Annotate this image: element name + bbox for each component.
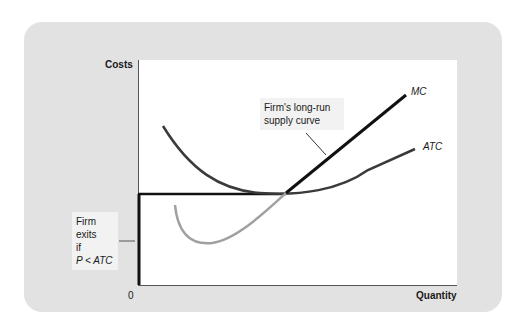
x-axis-label: Quantity	[416, 290, 457, 302]
exit-note: Firm exits if P < ATC	[72, 212, 118, 270]
supply-curve-note: Firm's long-run supply curve	[260, 98, 344, 130]
origin-label: 0	[128, 290, 134, 302]
supply-note-line2: supply curve	[264, 114, 340, 127]
y-axis-label: Costs	[105, 59, 133, 71]
exit-note-line1: Firm	[76, 215, 114, 228]
atc-label: ATC	[423, 141, 442, 153]
exit-note-line4: P < ATC	[76, 254, 114, 267]
exit-note-line2: exits	[76, 228, 114, 241]
plot-area	[138, 60, 457, 285]
supply-note-line1: Firm's long-run	[264, 101, 340, 114]
exit-note-line3: if	[76, 241, 114, 254]
mc-label: MC	[411, 86, 427, 98]
chart-canvas	[0, 0, 515, 336]
